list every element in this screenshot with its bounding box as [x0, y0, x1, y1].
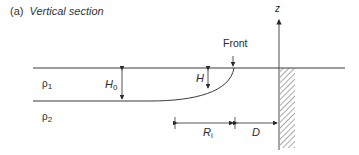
z-axis-label: z	[275, 4, 280, 14]
figure-label: (a)	[10, 5, 23, 17]
h-label: H	[196, 73, 204, 84]
rho2-label: ρ2	[42, 112, 52, 124]
figure-caption: Vertical section	[29, 5, 103, 17]
ri-label: Ri	[203, 127, 213, 140]
figure-title: (a)Vertical section	[10, 6, 104, 17]
ri-subscript: i	[211, 131, 213, 140]
rho1-subscript: 1	[48, 82, 52, 91]
front-label: Front	[223, 38, 248, 49]
rho1-label: ρ1	[42, 79, 52, 91]
vertical-section-diagram	[0, 0, 359, 155]
wall-hatch	[280, 68, 295, 148]
h0-label: H0	[105, 79, 117, 92]
h0-subscript: 0	[113, 83, 117, 92]
h0-symbol: H	[105, 78, 113, 90]
ri-symbol: R	[203, 126, 211, 138]
rho2-subscript: 2	[48, 115, 52, 124]
d-label: D	[252, 127, 260, 138]
